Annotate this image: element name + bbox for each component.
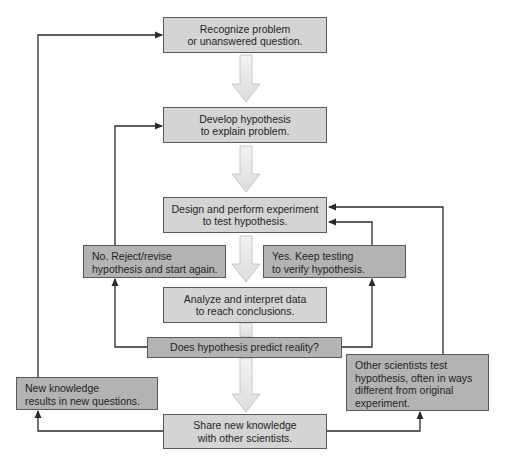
node-text-line: Does hypothesis predict reality? (170, 341, 319, 354)
connector-decision-to-reject (115, 279, 147, 347)
node-text-line: Recognize problem (200, 23, 290, 36)
node-recognize-problem: Recognize problem or unanswered question… (163, 17, 327, 53)
node-text-line: Other scientists test (355, 359, 482, 372)
node-design-experiment: Design and perform experiment to test hy… (163, 197, 327, 233)
node-text-line: hypothesis and start again. (92, 263, 219, 276)
connector-keep-testing-to-design (329, 222, 372, 245)
node-text-line: Yes. Keep testing (272, 250, 399, 263)
flow-arrow-recognize-develop (232, 55, 260, 102)
node-text-line: or unanswered question. (188, 35, 303, 48)
flow-arrow-decision-share (232, 358, 260, 412)
node-text-line: experiment. (355, 397, 482, 410)
node-reject-revise: No. Reject/revise hypothesis and start a… (83, 245, 226, 278)
connector-reject-to-develop (115, 126, 162, 245)
node-new-knowledge: New knowledge results in new questions. (16, 377, 158, 410)
scientific-method-flowchart: Recognize problem or unanswered question… (0, 0, 511, 469)
node-text-line: to explain problem. (201, 125, 290, 138)
connector-new-knowledge-to-recognize (38, 35, 162, 377)
connector-share-to-other-scientists (327, 412, 420, 431)
connector-share-to-new-knowledge (38, 411, 163, 431)
node-analyze-data: Analyze and interpret data to reach conc… (163, 287, 327, 323)
node-develop-hypothesis: Develop hypothesis to explain problem. (163, 107, 327, 143)
node-text-line: hypothesis, often in ways (355, 372, 482, 385)
node-share-knowledge: Share new knowledge with other scientist… (163, 414, 327, 449)
node-text-line: to reach conclusions. (196, 305, 295, 318)
node-text-line: New knowledge (25, 382, 151, 395)
node-text-line: results in new questions. (25, 395, 151, 408)
node-text-line: Design and perform experiment (171, 203, 318, 216)
connector-decision-to-keep-testing (342, 279, 372, 347)
node-text-line: No. Reject/revise (92, 250, 219, 263)
node-text-line: Analyze and interpret data (184, 293, 307, 306)
connector-other-scientists-to-design (329, 207, 443, 354)
node-decision-predict-reality: Does hypothesis predict reality? (147, 337, 342, 358)
node-text-line: to test hypothesis. (203, 215, 288, 228)
node-text-line: different from original (355, 384, 482, 397)
node-keep-testing: Yes. Keep testing to verify hypothesis. (263, 245, 406, 278)
flow-arrow-design-analyze (232, 236, 260, 282)
node-text-line: Share new knowledge (193, 419, 296, 432)
flow-arrow-analyze-decision (240, 323, 252, 337)
node-text-line: with other scientists. (198, 432, 293, 445)
node-other-scientists: Other scientists test hypothesis, often … (346, 354, 489, 411)
node-text-line: Develop hypothesis (199, 113, 291, 126)
node-text-line: to verify hypothesis. (272, 263, 399, 276)
flow-arrow-develop-design (232, 146, 260, 192)
